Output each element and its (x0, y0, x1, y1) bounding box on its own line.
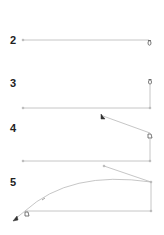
corner-point (149, 107, 151, 109)
anchor-icon (148, 41, 151, 46)
diagonal-line (103, 116, 150, 133)
step-4-figure (22, 114, 152, 162)
end-point (22, 107, 24, 109)
anchor-icon (25, 212, 29, 216)
step-3-figure (22, 80, 151, 109)
end-point (22, 39, 24, 41)
corner-point (149, 160, 151, 162)
corner-point (150, 210, 152, 212)
diagram-canvas (0, 0, 164, 235)
step-5-figure (13, 165, 152, 221)
anchor-icon (148, 134, 152, 138)
arc-curve (25, 179, 151, 211)
end-point (22, 160, 24, 162)
end-point (103, 165, 105, 167)
arrow-marker-icon (13, 216, 18, 221)
anchor-icon (149, 80, 152, 85)
step-2-figure (22, 39, 151, 45)
